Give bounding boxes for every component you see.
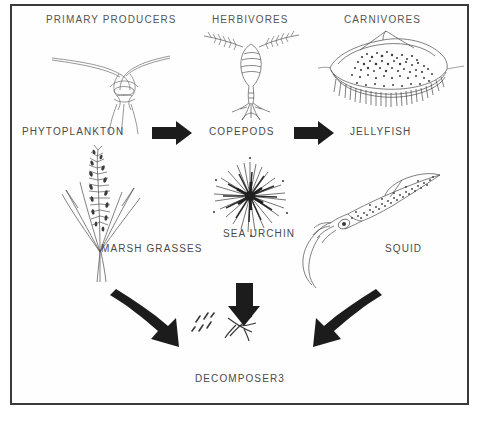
squid-illustration xyxy=(303,174,440,288)
arrow-carnivores-to-decomposers xyxy=(313,289,382,347)
label-marsh-grasses: MARSH GRASSES xyxy=(101,243,203,254)
heading-herbivores: HERBIVORES xyxy=(212,14,289,25)
arrow-herbivores-to-carnivores xyxy=(294,121,334,145)
detritus-illustration xyxy=(192,313,214,331)
jellyfish-illustration xyxy=(318,31,464,107)
sea-urchin-illustration xyxy=(213,157,288,237)
heading-primary-producers: PRIMARY PRODUCERS xyxy=(46,14,177,25)
food-web-figure: PRIMARY PRODUCERS HERBIVORES CARNIVORES … xyxy=(0,0,489,422)
copepod-illustration xyxy=(204,31,299,120)
label-jellyfish: JELLYFISH xyxy=(350,126,411,137)
label-sea-urchin: SEA URCHIN xyxy=(223,228,295,239)
arrow-producers-to-decomposers xyxy=(110,289,179,347)
label-squid: SQUID xyxy=(385,243,422,254)
label-decomposers: DECOMPOSER3 xyxy=(195,373,285,384)
label-copepods: COPEPODS xyxy=(209,126,274,137)
marsh-grasses-illustration xyxy=(62,145,140,282)
arrow-herbivores-to-decomposers xyxy=(228,283,260,326)
illustration-layer xyxy=(0,0,489,422)
label-phytoplankton: PHYTOPLANKTON xyxy=(22,126,124,137)
heading-carnivores: CARNIVORES xyxy=(344,14,421,25)
phytoplankton-illustration xyxy=(52,56,170,134)
arrow-producers-to-herbivores xyxy=(152,121,192,145)
